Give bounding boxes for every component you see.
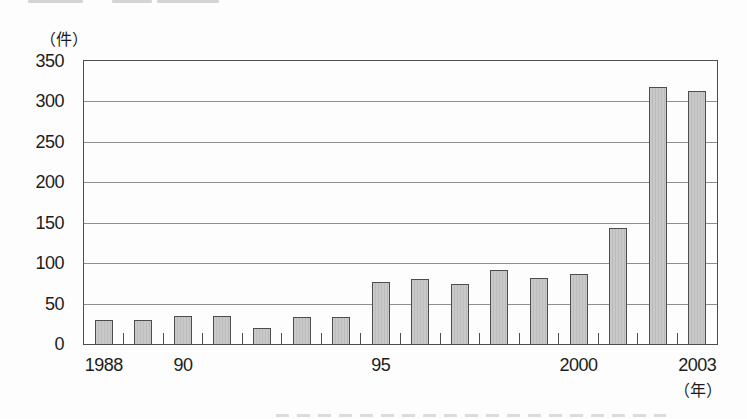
bar-2001 — [609, 228, 627, 344]
x-axis-unit-label: （年） — [640, 377, 722, 401]
x-axis-tick — [163, 333, 164, 344]
bar-1996 — [411, 279, 429, 344]
bar-1989 — [134, 320, 152, 344]
y-tick-label-200: 200 — [8, 171, 64, 193]
bar-1990 — [174, 316, 192, 344]
bar-1993 — [293, 317, 311, 344]
scanned-chart-figure: （件） （年） 05010015020025030035019889095200… — [0, 0, 747, 419]
y-tick-label-50: 50 — [8, 293, 64, 315]
y-axis-unit-label: （件） — [40, 26, 88, 50]
x-axis-tick — [242, 333, 243, 344]
x-tick-label-2003: 2003 — [657, 354, 737, 376]
bar-1998 — [490, 270, 508, 344]
x-axis-tick — [558, 333, 559, 344]
x-axis-tick — [400, 333, 401, 344]
bar-1994 — [332, 317, 350, 344]
x-axis-tick — [598, 333, 599, 344]
gridline-250 — [84, 142, 717, 143]
bar-1995 — [372, 282, 390, 344]
x-axis-tick — [637, 333, 638, 344]
x-axis-tick — [677, 333, 678, 344]
cropped-text-artifact-top — [28, 0, 83, 3]
y-tick-label-100: 100 — [8, 252, 64, 274]
plot-area — [83, 60, 718, 345]
cropped-text-artifact-top — [157, 0, 219, 3]
bar-1999 — [530, 278, 548, 344]
y-tick-label-150: 150 — [8, 212, 64, 234]
x-axis-tick — [360, 333, 361, 344]
x-axis-tick — [123, 333, 124, 344]
y-tick-label-300: 300 — [8, 90, 64, 112]
x-tick-label-95: 95 — [341, 354, 421, 376]
y-tick-label-0: 0 — [8, 333, 64, 355]
y-tick-label-350: 350 — [8, 50, 64, 72]
x-axis-tick — [440, 333, 441, 344]
bar-1992 — [253, 328, 271, 344]
gridline-150 — [84, 223, 717, 224]
bar-1991 — [213, 316, 231, 344]
x-axis-tick — [202, 333, 203, 344]
bar-1988 — [95, 320, 113, 344]
cropped-text-artifact-top — [112, 0, 152, 3]
bar-2002 — [649, 87, 667, 344]
x-axis-tick — [519, 333, 520, 344]
x-axis-tick — [281, 333, 282, 344]
x-tick-label-90: 90 — [143, 354, 223, 376]
x-tick-label-1988: 1988 — [64, 354, 144, 376]
x-axis-tick — [479, 333, 480, 344]
x-axis-tick — [321, 333, 322, 344]
bar-1997 — [451, 284, 469, 344]
gridline-200 — [84, 182, 717, 183]
x-tick-label-2000: 2000 — [539, 354, 619, 376]
gridline-300 — [84, 101, 717, 102]
y-tick-label-250: 250 — [8, 131, 64, 153]
bar-2000 — [570, 274, 588, 344]
cropped-text-artifact-bottom — [276, 414, 666, 417]
bar-2003 — [688, 91, 706, 344]
